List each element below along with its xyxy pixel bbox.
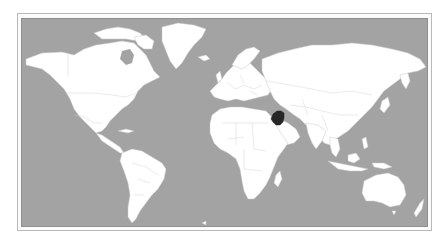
- indonesia: [328, 161, 368, 171]
- world-map: [21, 18, 428, 227]
- greenland: [162, 23, 206, 69]
- new-zealand: [414, 199, 424, 217]
- new-guinea: [372, 163, 392, 169]
- scandinavia: [232, 47, 260, 69]
- kamchatka: [400, 73, 410, 89]
- south-america: [120, 149, 166, 223]
- iceland: [198, 55, 210, 61]
- borneo: [348, 153, 360, 163]
- madagascar: [274, 171, 282, 187]
- southeast-asia: [330, 137, 340, 157]
- world-map-svg: [22, 19, 428, 227]
- south-island-scrap: [202, 221, 206, 225]
- australia: [362, 173, 406, 207]
- tasmania: [392, 211, 396, 215]
- caribbean: [118, 129, 134, 133]
- japan: [380, 97, 390, 113]
- philippines: [362, 137, 368, 149]
- central-america: [96, 133, 124, 153]
- north-america: [26, 41, 160, 133]
